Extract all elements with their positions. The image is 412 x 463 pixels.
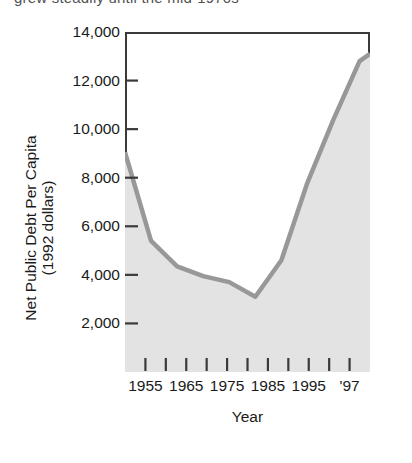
area-series-group — [125, 54, 370, 372]
y-axis-tick-label: 12,000 — [46, 73, 120, 89]
x-axis-tick-label: 1975 — [210, 378, 244, 394]
x-axis-tick-label: 1985 — [251, 378, 285, 394]
y-axis-title-line1: Net Public Debt Per Capita — [22, 135, 39, 320]
y-axis-tick-label: 2,000 — [46, 315, 120, 331]
plot-area — [125, 32, 370, 372]
y-axis-tick-label: 14,000 — [46, 24, 120, 40]
y-axis-tick-label: 4,000 — [46, 267, 120, 283]
y-axis-tick-label: 10,000 — [46, 121, 120, 137]
y-axis-tick-label: 6,000 — [46, 218, 120, 234]
area-fill-path — [125, 54, 370, 372]
chart-svg — [125, 32, 370, 372]
x-axis-tick-labels: 19551965197519851995'97 — [0, 378, 412, 404]
x-axis-tick-label: 1955 — [128, 378, 162, 394]
x-axis-tick-label: '97 — [339, 378, 359, 394]
x-axis-tick-label: 1965 — [169, 378, 203, 394]
chart-figure: Net Public Debt Per Capita (1992 dollars… — [0, 0, 412, 463]
y-axis-tick-label: 8,000 — [46, 170, 120, 186]
x-axis-title: Year — [125, 408, 370, 426]
x-axis-tick-label: 1995 — [292, 378, 326, 394]
